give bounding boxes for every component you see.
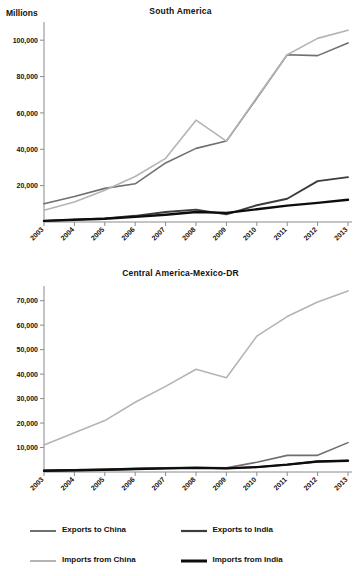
y-tick-label: 10,000	[17, 444, 39, 452]
x-tick-label: 2004	[59, 226, 75, 242]
y-tick-label: 20,000	[17, 420, 39, 428]
legend-label-exports-to-china: Exports to China	[62, 525, 126, 534]
x-tick-label: 2003	[29, 476, 45, 492]
legend-swatch-imports-from-china	[30, 550, 56, 568]
legend-swatch-exports-to-india	[181, 520, 207, 538]
y-tick-label: 80,000	[17, 73, 39, 81]
x-tick-label: 2007	[150, 476, 166, 492]
series-line-exports-to-india	[44, 177, 348, 221]
x-tick-label: 2004	[59, 476, 75, 492]
x-tick-label: 2009	[211, 476, 227, 492]
legend-item-imports-from-china[interactable]: Imports from China	[30, 550, 181, 568]
x-tick-label: 2008	[181, 226, 197, 242]
x-tick-label: 2007	[150, 226, 166, 242]
series-line-exports-to-china	[44, 43, 348, 204]
chart-panel-central-america: Central America-Mexico-DR 10,00020,00030…	[0, 262, 361, 512]
legend-item-exports-to-china[interactable]: Exports to China	[30, 520, 181, 538]
x-tick-label: 2011	[272, 226, 288, 242]
y-tick-label: 40,000	[17, 146, 39, 154]
x-tick-label: 2013	[333, 226, 349, 242]
x-tick-label: 2012	[302, 226, 318, 242]
plot-area-south-america: 20,00040,00060,00080,000100,000200320042…	[0, 0, 361, 262]
y-tick-label: 30,000	[17, 395, 39, 403]
y-tick-label: 40,000	[17, 371, 39, 379]
chart-panel-south-america: Millions South America 20,00040,00060,00…	[0, 0, 361, 262]
chart-page: Millions South America 20,00040,00060,00…	[0, 0, 361, 576]
legend-swatch-exports-to-china	[30, 520, 56, 538]
series-line-imports-from-india	[44, 461, 348, 471]
y-tick-label: 60,000	[17, 110, 39, 118]
y-tick-label: 100,000	[13, 37, 38, 45]
y-tick-label: 50,000	[17, 346, 39, 354]
legend-swatch-imports-from-india	[181, 550, 207, 568]
legend-label-exports-to-india: Exports to India	[213, 525, 273, 534]
series-line-imports-from-china	[44, 30, 348, 210]
x-tick-label: 2010	[242, 226, 258, 242]
legend-item-exports-to-india[interactable]: Exports to India	[181, 520, 332, 538]
x-tick-label: 2006	[120, 226, 136, 242]
x-tick-label: 2005	[90, 476, 106, 492]
chart-legend: Exports to ChinaExports to IndiaImports …	[0, 516, 361, 574]
y-tick-label: 20,000	[17, 182, 39, 190]
x-tick-label: 2009	[211, 226, 227, 242]
x-tick-label: 2013	[333, 476, 349, 492]
y-tick-label: 70,000	[17, 297, 39, 305]
x-tick-label: 2012	[302, 476, 318, 492]
legend-label-imports-from-china: Imports from China	[62, 555, 136, 564]
x-tick-label: 2011	[272, 476, 288, 492]
legend-item-imports-from-india[interactable]: Imports from India	[181, 550, 332, 568]
x-tick-label: 2003	[29, 226, 45, 242]
series-line-exports-to-china	[44, 443, 348, 471]
x-tick-label: 2010	[242, 476, 258, 492]
legend-label-imports-from-india: Imports from India	[213, 555, 283, 564]
y-tick-label: 60,000	[17, 322, 39, 330]
x-tick-label: 2008	[181, 476, 197, 492]
x-tick-label: 2006	[120, 476, 136, 492]
x-tick-label: 2005	[90, 226, 106, 242]
plot-area-central-america: 10,00020,00030,00040,00050,00060,00070,0…	[0, 262, 361, 512]
series-line-imports-from-china	[44, 291, 348, 445]
